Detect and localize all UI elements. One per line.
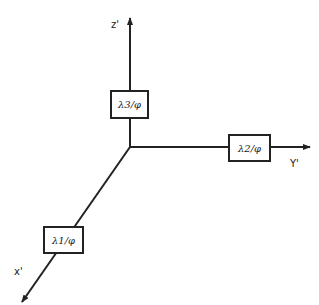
lambda2-box: λ2/φ: [228, 134, 271, 162]
x-axis: [22, 147, 130, 302]
x-axis-label: x': [14, 266, 23, 277]
lambda1-box: λ1/φ: [43, 226, 84, 254]
z-axis-label: z': [111, 19, 119, 30]
axes-svg: [0, 0, 319, 305]
lambda3-box: λ3/φ: [110, 90, 149, 119]
y-axis-label: Y': [290, 158, 299, 169]
